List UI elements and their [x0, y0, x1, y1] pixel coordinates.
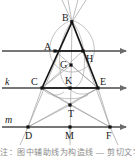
- label-point-G: G: [60, 59, 67, 70]
- label-line-k: k: [5, 76, 10, 87]
- cropped-caption-text: 注：图中辅助线为构造线 — 剪切文字: [0, 148, 135, 157]
- point-B-marker: [70, 20, 73, 23]
- arc-under-ke: [70, 88, 98, 94]
- point-K-marker: [68, 86, 71, 89]
- line-e-t: [70, 88, 98, 105]
- label-point-E: E: [100, 76, 106, 87]
- label-line-m: m: [5, 114, 12, 125]
- point-D-marker: [26, 125, 29, 128]
- label-point-F: F: [106, 130, 112, 141]
- point-T-marker: [68, 103, 71, 106]
- point-F-marker: [108, 125, 111, 128]
- label-point-A: A: [44, 41, 52, 52]
- label-point-B: B: [62, 12, 69, 23]
- point-M-marker: [68, 125, 71, 128]
- line-c-t: [42, 88, 70, 105]
- label-point-C: C: [31, 76, 38, 87]
- point-G-marker: [69, 63, 72, 66]
- label-point-M: M: [65, 130, 74, 141]
- label-point-K: K: [65, 75, 73, 86]
- ray-b-up-far-right: [72, 0, 86, 22]
- line-labels: k m: [5, 76, 12, 125]
- label-point-H: H: [86, 53, 93, 64]
- geometry-figure: B A H G C K E T D M F k m 注：图中辅助线为构造线 — …: [0, 0, 135, 157]
- geometry-canvas: B A H G C K E T D M F k m: [0, 0, 135, 157]
- arc-right-inner: [72, 21, 85, 88]
- line-t-d: [28, 105, 70, 127]
- point-C-marker: [40, 86, 43, 89]
- point-A-marker: [53, 49, 56, 52]
- ray-b-up-right: [72, 0, 78, 22]
- point-H-marker: [81, 49, 84, 52]
- label-point-D: D: [25, 130, 32, 141]
- construction-lines: [20, 0, 118, 145]
- label-point-T: T: [68, 108, 74, 119]
